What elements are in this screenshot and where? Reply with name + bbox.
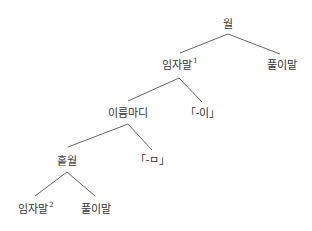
- node-label: 임자말: [162, 59, 192, 72]
- node-suffix-i: 「-이」: [185, 108, 222, 119]
- tree-edge: [68, 124, 128, 147]
- node-predicate-bottom: 풀이말: [81, 204, 112, 215]
- node-label: 풀이말: [267, 59, 297, 72]
- tree-edge: [67, 172, 95, 196]
- node-label: 「-ㅁ」: [135, 154, 171, 167]
- syntax-tree-diagram: 월 임자말1 풀이말 이름마디 「-이」 홑월 「-ㅁ」 임자말2 풀이말: [0, 0, 312, 231]
- node-label: 임자말: [18, 203, 48, 216]
- node-noun-clause: 이름마디: [108, 108, 149, 119]
- node-subject-1: 임자말1: [162, 60, 197, 71]
- tree-edge: [180, 34, 228, 53]
- tree-edges: [0, 0, 312, 231]
- tree-edge: [228, 34, 280, 54]
- node-root: 월: [223, 19, 234, 30]
- node-label: 이름마디: [108, 107, 148, 120]
- tree-edge: [35, 172, 67, 196]
- tree-edge: [128, 124, 152, 150]
- node-simple-sentence: 홑월: [57, 156, 78, 167]
- node-label: 월: [223, 18, 233, 31]
- node-predicate-top: 풀이말: [267, 60, 298, 71]
- node-superscript: 1: [193, 57, 197, 65]
- node-suffix-m: 「-ㅁ」: [135, 155, 172, 166]
- node-superscript: 2: [49, 201, 53, 209]
- tree-edge: [179, 78, 202, 102]
- node-label: 풀이말: [81, 203, 111, 216]
- tree-edge: [128, 78, 179, 101]
- node-subject-2: 임자말2: [18, 204, 53, 215]
- node-label: 「-이」: [185, 107, 221, 120]
- node-label: 홑월: [57, 155, 77, 168]
